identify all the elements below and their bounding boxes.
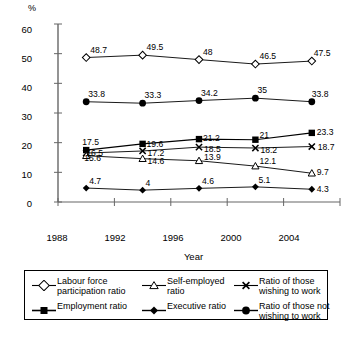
data-label: 13.9: [204, 153, 221, 162]
data-label: 15.6: [84, 154, 101, 163]
data-label: 47.5: [314, 49, 331, 58]
data-label: 33.3: [145, 91, 162, 100]
plot-area: 48.749.54846.547.533.833.334.23533.817.5…: [44, 22, 342, 222]
series-labour-force-participation-ratio: [82, 51, 315, 68]
data-label: 4.3: [317, 185, 329, 194]
data-label: 17.5: [82, 138, 99, 147]
filled-diamond-icon: [141, 302, 167, 313]
legend-label: Employment ratio: [57, 301, 127, 311]
x-tick-label-1988: 1988: [33, 233, 81, 243]
data-label: 5.1: [258, 176, 270, 185]
legend-label: Ratio of those wishing to work: [259, 276, 321, 296]
legend-item-executive-ratio: Executive ratio: [141, 301, 233, 313]
legend-label: Ratio of those not wishing to work: [259, 301, 330, 321]
series-ratio-of-those-wishing-to-work: [83, 143, 315, 156]
data-label: 23.3: [317, 128, 334, 137]
data-label: 35: [257, 86, 267, 95]
data-label: 14.6: [148, 157, 165, 166]
plot-svg: [44, 22, 342, 228]
data-label: 46.5: [259, 52, 276, 61]
series-ratio-of-those-not-wishing-to-work: [83, 95, 315, 107]
line-chart: % 60 50 40 30 20 10 0 1988 1992 1996 200…: [0, 0, 355, 337]
data-label: 18.7: [318, 143, 335, 152]
x-axis-title: Year: [16, 252, 355, 262]
filled-circle-icon: [233, 302, 259, 313]
data-label: 21: [259, 131, 269, 140]
y-tick-label-60: 60: [6, 25, 32, 35]
y-axis-unit-label: %: [28, 4, 36, 13]
filled-square-icon: [31, 302, 57, 313]
y-tick-label-20: 20: [6, 141, 32, 151]
open-triangle-icon: [141, 277, 167, 288]
legend-label: Executive ratio: [167, 301, 226, 311]
legend-item-self-employed-ratio: Self-employed ratio: [141, 276, 233, 296]
data-label: 12.1: [259, 157, 276, 166]
legend-label: Self-employed ratio: [167, 276, 225, 296]
x-tick-label-2004: 2004: [265, 233, 313, 243]
data-label: 33.8: [312, 90, 329, 99]
x-tick-label-2000: 2000: [207, 233, 255, 243]
y-tick-label-50: 50: [6, 54, 32, 64]
x-tick-label-1996: 1996: [149, 233, 197, 243]
data-label: 4.7: [89, 177, 101, 186]
legend-item-ratio-of-those-wishing-to-work: Ratio of those wishing to work: [233, 276, 333, 296]
legend-item-labour-force-participation-ratio: Labour force participation ratio: [31, 276, 141, 296]
legend-item-employment-ratio: Employment ratio: [31, 301, 141, 313]
data-label: 21.2: [203, 134, 220, 143]
series-employment-ratio: [83, 130, 315, 154]
data-label: 4.6: [202, 177, 214, 186]
data-label: 34.2: [201, 89, 218, 98]
series-executive-ratio: [83, 183, 315, 193]
data-label: 18.2: [260, 146, 277, 155]
legend-row-1: Labour force participation ratio Self-em…: [31, 276, 323, 296]
y-tick-label-30: 30: [6, 112, 32, 122]
data-label: 48.7: [90, 46, 107, 55]
data-label: 4: [146, 179, 151, 188]
legend-label: Labour force participation ratio: [57, 276, 126, 296]
legend: Labour force participation ratio Self-em…: [24, 270, 328, 320]
x-tick-label-1992: 1992: [91, 233, 139, 243]
y-tick-label-10: 10: [6, 170, 32, 180]
data-label: 49.5: [147, 43, 164, 52]
y-tick-label-0: 0: [6, 199, 32, 209]
data-label: 9.7: [317, 168, 329, 177]
legend-item-ratio-of-those-not-wishing-to-work: Ratio of those not wishing to work: [233, 301, 333, 321]
cross-x-icon: [233, 277, 259, 288]
legend-row-2: Employment ratio Executive ratio Ratio o…: [31, 301, 323, 321]
y-tick-label-40: 40: [6, 83, 32, 93]
open-diamond-icon: [31, 277, 57, 288]
series-self-employed-ratio: [83, 152, 316, 176]
data-label: 33.8: [88, 90, 105, 99]
series-layer: [82, 51, 315, 193]
data-label: 48: [203, 48, 213, 57]
